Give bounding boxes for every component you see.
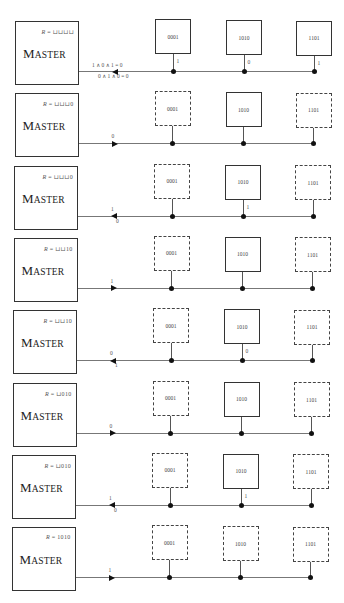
slave-bit: 0 bbox=[248, 59, 251, 65]
junction-dot bbox=[311, 214, 316, 219]
slave-id: 0001 bbox=[165, 395, 176, 401]
register-value: R = ⊔⊔10 bbox=[43, 317, 72, 324]
slave-id: 1101 bbox=[307, 324, 318, 330]
arrow-right-icon bbox=[109, 575, 115, 581]
junction-dot bbox=[240, 286, 245, 291]
junction-dot bbox=[241, 141, 246, 146]
slave-id: 1101 bbox=[306, 397, 317, 403]
master-box: R = ⊔010MASTER bbox=[13, 383, 77, 447]
slave-box-0001: 0001 bbox=[155, 91, 191, 126]
junction-dot bbox=[310, 358, 315, 363]
step-panel-1: R = ⊔⊔⊔⊔MASTER1 ∧ 0 ∧ 1 = 00 ∧ 1 ∧ 0 = 0… bbox=[0, 19, 344, 91]
slave-box-1010: 1010 bbox=[224, 309, 260, 344]
register-value: R = 1010 bbox=[46, 534, 70, 540]
slave-box-1010: 1010 bbox=[224, 382, 260, 417]
junction-dot bbox=[309, 431, 314, 436]
step-panel-6: R = ⊔010MASTER0000110101101 bbox=[0, 381, 344, 453]
slave-box-1010: 1010 bbox=[223, 526, 259, 561]
slave-id: 1010 bbox=[235, 541, 246, 547]
bus-label-above: 1 bbox=[111, 206, 114, 212]
junction-dot bbox=[167, 575, 172, 580]
junction-dot bbox=[170, 214, 175, 219]
slave-id: 1010 bbox=[236, 396, 247, 402]
slave-id: 0001 bbox=[165, 467, 176, 473]
slave-id: 1101 bbox=[307, 252, 318, 258]
junction-dot bbox=[239, 503, 244, 508]
bus-label-below: 0 ∧ 1 ∧ 0 = 0 bbox=[98, 73, 128, 79]
slave-box-1101: 1101 bbox=[296, 93, 332, 128]
slave-id: 0001 bbox=[166, 250, 177, 256]
junction-dot bbox=[171, 69, 176, 74]
junction-dot bbox=[169, 358, 174, 363]
junction-dot bbox=[240, 358, 245, 363]
arrow-right-icon bbox=[111, 285, 117, 291]
slave-box-1010: 1010 bbox=[225, 165, 261, 200]
master-label: MASTER bbox=[22, 263, 65, 279]
bus-label-above: 1 bbox=[109, 567, 112, 573]
slave-box-1101: 1101 bbox=[293, 454, 329, 489]
register-value: R = ⊔010 bbox=[45, 390, 71, 397]
junction-dot bbox=[168, 431, 173, 436]
slave-id: 0001 bbox=[168, 34, 179, 40]
master-label: MASTER bbox=[20, 480, 63, 496]
master-label: MASTER bbox=[20, 552, 63, 568]
master-box: R = ⊔⊔⊔⊔MASTER bbox=[15, 21, 79, 85]
slave-box-1010: 1010 bbox=[225, 237, 261, 272]
slave-id: 1010 bbox=[237, 251, 248, 257]
slave-box-0001: 0001 bbox=[155, 19, 191, 54]
slave-id: 0001 bbox=[167, 106, 178, 112]
master-box: R = ⊔010MASTER bbox=[12, 455, 76, 519]
bus-label-above: 0 bbox=[110, 423, 113, 429]
junction-dot bbox=[309, 503, 314, 508]
master-label: MASTER bbox=[21, 335, 64, 351]
junction-dot bbox=[308, 575, 313, 580]
bus-label-below: 0 bbox=[116, 218, 119, 224]
master-box: R = ⊔⊔⊔0MASTER bbox=[15, 93, 79, 157]
register-value: R = ⊔010 bbox=[45, 462, 71, 469]
master-box: R = ⊔⊔10MASTER bbox=[13, 310, 77, 374]
slave-box-1101: 1101 bbox=[296, 21, 332, 56]
slave-id: 1101 bbox=[309, 35, 320, 41]
bus-label-above: 0 bbox=[112, 133, 115, 139]
step-panel-5: R = ⊔⊔10MASTER010001101001101 bbox=[0, 308, 344, 380]
slave-box-0001: 0001 bbox=[154, 236, 190, 271]
master-label: MASTER bbox=[21, 408, 64, 424]
junction-dot bbox=[169, 286, 174, 291]
junction-dot bbox=[168, 503, 173, 508]
slave-box-0001: 0001 bbox=[153, 381, 189, 416]
slave-box-1010: 1010 bbox=[226, 20, 262, 55]
slave-box-1101: 1101 bbox=[294, 382, 330, 417]
arrow-right-icon bbox=[110, 430, 116, 436]
master-box: R = 1010MASTER bbox=[12, 527, 76, 591]
slave-box-0001: 0001 bbox=[152, 453, 188, 488]
junction-dot bbox=[311, 141, 316, 146]
slave-id: 1010 bbox=[238, 179, 249, 185]
step-panel-7: R = ⊔010MASTER100001101011101 bbox=[0, 453, 344, 525]
junction-dot bbox=[241, 214, 246, 219]
bus-label-above: 1 bbox=[111, 278, 114, 284]
slave-id: 1101 bbox=[308, 107, 319, 113]
slave-bit: 1 bbox=[177, 58, 180, 64]
slave-id: 1010 bbox=[237, 324, 248, 330]
register-value: R = ⊔⊔⊔⊔ bbox=[41, 28, 74, 35]
master-label: MASTER bbox=[23, 118, 66, 134]
junction-dot bbox=[242, 69, 247, 74]
bus-label-above: 0 bbox=[110, 350, 113, 356]
slave-box-0001: 0001 bbox=[154, 164, 190, 199]
drop-line bbox=[170, 416, 171, 433]
slave-box-1101: 1101 bbox=[293, 527, 329, 562]
slave-id: 0001 bbox=[166, 323, 177, 329]
junction-dot bbox=[310, 286, 315, 291]
slave-id: 1010 bbox=[236, 468, 247, 474]
slave-box-1101: 1101 bbox=[295, 237, 331, 272]
slave-id: 0001 bbox=[167, 178, 178, 184]
step-panel-3: R = ⊔⊔⊔0MASTER100001101011101 bbox=[0, 164, 344, 236]
master-box: R = ⊔⊔10MASTER bbox=[14, 238, 78, 302]
bus-label-below: 1 bbox=[115, 362, 118, 368]
slave-bit: 1 bbox=[245, 493, 248, 499]
master-box: R = ⊔⊔⊔0MASTER bbox=[14, 166, 78, 230]
slave-box-0001: 0001 bbox=[152, 525, 188, 560]
slave-id: 1101 bbox=[306, 469, 317, 475]
slave-box-1101: 1101 bbox=[295, 165, 331, 200]
slave-id: 1010 bbox=[238, 107, 249, 113]
